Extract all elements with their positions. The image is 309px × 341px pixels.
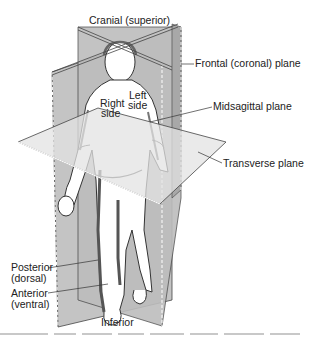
label-left-side-line2: side (128, 100, 147, 111)
label-midsagittal-plane: Midsagittal plane (213, 101, 292, 112)
label-frontal-plane: Frontal (coronal) plane (195, 58, 301, 69)
anatomical-planes-figure: Cranial (superior) Frontal (coronal) pla… (0, 0, 309, 341)
label-transverse-plane: Transverse plane (223, 158, 304, 169)
label-right-side-line2: side (101, 108, 120, 119)
label-inferior: Inferior (101, 317, 134, 328)
label-posterior-line2: (dorsal) (11, 273, 47, 284)
label-anterior-line2: (ventral) (11, 299, 50, 310)
faded-caption-fragment (0, 333, 309, 339)
label-cranial: Cranial (superior) (89, 15, 170, 26)
